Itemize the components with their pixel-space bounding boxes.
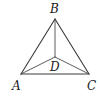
diagram-canvas: B D A C [0, 0, 100, 96]
label-A: A [11, 79, 21, 93]
label-C: C [87, 79, 96, 93]
label-D: D [49, 60, 60, 74]
label-B: B [49, 2, 59, 16]
triangle-diagram: B D A C [0, 0, 100, 96]
